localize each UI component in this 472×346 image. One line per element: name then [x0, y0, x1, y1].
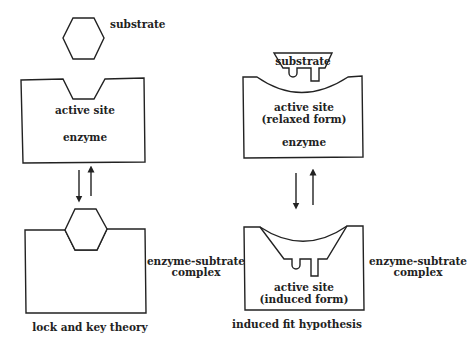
enzyme-models-diagram: substrate active site enzyme enzyme-subt…: [0, 0, 472, 346]
relaxed-form-label: (relaxed form): [261, 113, 346, 125]
lock-and-key-caption: lock and key theory: [32, 321, 148, 333]
induced-form-label: (induced form): [260, 293, 349, 305]
induced-fit-caption: induced fit hypothesis: [232, 318, 362, 330]
substrate-label: substrate: [110, 18, 166, 30]
bound-substrate-curve: [260, 226, 347, 241]
bound-substrate-hexagon: [65, 209, 107, 250]
substrate-label: substrate: [275, 55, 331, 67]
lock-and-key-panel: substrate active site enzyme enzyme-subt…: [21, 18, 245, 333]
induced-fit-panel: substrate active site (relaxed form) enz…: [232, 53, 467, 330]
active-site-label: active site: [55, 104, 115, 116]
complex-label-line2: complex: [172, 266, 222, 278]
enzyme-label: enzyme: [63, 131, 107, 143]
enzyme-box: [21, 78, 145, 163]
active-site-label: active site: [274, 101, 334, 113]
substrate-hexagon: [63, 18, 104, 59]
induced-active-site-label: active site: [274, 281, 334, 293]
enzyme-label: enzyme: [282, 136, 326, 148]
complex-label-line2: complex: [394, 266, 444, 278]
